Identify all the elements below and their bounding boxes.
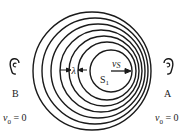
wavefront-circles bbox=[33, 12, 151, 130]
wavelength-label: λ bbox=[71, 65, 77, 76]
ear-left-glyph bbox=[9, 58, 21, 75]
observer-b-velocity: v0 = 0 bbox=[3, 112, 27, 126]
source-label: S1 bbox=[100, 74, 110, 87]
observer-a-label: A bbox=[164, 88, 171, 99]
observer-b-label: B bbox=[12, 88, 19, 99]
source-velocity-arrow bbox=[111, 69, 131, 74]
source-velocity-label: vS bbox=[112, 58, 120, 70]
ear-icon-left bbox=[9, 58, 21, 78]
ear-right-glyph bbox=[162, 58, 174, 75]
ear-icon-right bbox=[162, 58, 174, 78]
observer-a-velocity: v0 = 0 bbox=[155, 112, 179, 126]
